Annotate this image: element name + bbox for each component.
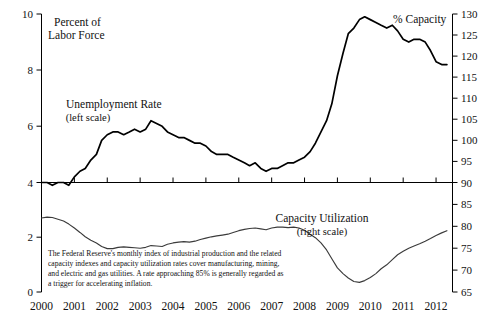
footnote-line-3: and electric and gas utilities. A rate a…	[48, 269, 284, 278]
x-tick-label: 2003	[129, 300, 152, 312]
right-axis-ticks: 130 125 120 115 110 105 100 95 90 85 80	[453, 8, 479, 298]
annotation-percent-labor-force: Percent of Labor Force	[48, 16, 105, 41]
right-tick-label: 85	[461, 198, 473, 210]
right-tick-label: 65	[461, 286, 473, 298]
x-tick-label: 2004	[162, 300, 185, 312]
x-tick-label: 2011	[392, 300, 415, 312]
right-tick-label: 90	[461, 177, 473, 189]
footnote-line-2: capacity indexes and capacity utilizatio…	[48, 259, 280, 268]
annotation-capacity-title: Capacity Utilization	[276, 212, 369, 225]
left-tick-label: 2	[28, 231, 34, 243]
chart-figure: 10 8 6 4 2 0 130 125 120 115 110	[0, 0, 500, 328]
x-tick-label: 2005	[194, 300, 217, 312]
x-tick-label: 2002	[96, 300, 119, 312]
right-tick-label: 70	[461, 264, 473, 276]
right-tick-label: 100	[461, 134, 478, 146]
right-tick-label: 75	[461, 242, 473, 254]
x-axis-ticks	[42, 178, 437, 183]
annotation-capacity-utilization: Capacity Utilization (right scale)	[276, 212, 369, 238]
left-tick-label: 0	[28, 286, 34, 298]
left-axis-ticks: 10 8 6 4 2 0	[22, 8, 42, 298]
upper-right-unit-label: % Capacity	[393, 13, 447, 26]
right-tick-label: 110	[461, 92, 478, 104]
annotation-capacity-subtitle: (right scale)	[297, 226, 348, 238]
x-tick-label: 2012	[425, 300, 448, 312]
annotation-unemployment-title: Unemployment Rate	[66, 98, 162, 111]
upper-left-unit-label-line1: Percent of	[54, 16, 101, 28]
x-tick-label: 2007	[260, 300, 283, 312]
x-tick-label: 2001	[63, 300, 86, 312]
left-tick-label: 4	[28, 177, 34, 189]
x-tick-label: 2006	[227, 300, 250, 312]
left-tick-label: 10	[22, 8, 34, 20]
x-tick-label: 2000	[30, 300, 53, 312]
x-tick-label: 2010	[359, 300, 382, 312]
right-tick-label: 115	[461, 71, 478, 83]
right-tick-label: 125	[461, 29, 478, 41]
annotation-unemployment-subtitle: (left scale)	[66, 112, 111, 124]
left-tick-label: 8	[28, 64, 34, 76]
right-tick-label: 120	[461, 50, 478, 62]
x-axis-labels: 2000200120022003200420052006200720082009…	[30, 300, 448, 312]
x-tick-label: 2009	[326, 300, 349, 312]
x-tick-label: 2008	[293, 300, 316, 312]
upper-left-unit-label-line2: Labor Force	[48, 29, 105, 41]
right-tick-label: 80	[461, 220, 473, 232]
chart-svg: 10 8 6 4 2 0 130 125 120 115 110	[0, 0, 500, 328]
footnote-line-4: a trigger for accelerating inflation.	[48, 279, 152, 288]
right-tick-label: 95	[461, 155, 473, 167]
left-tick-label: 6	[28, 120, 34, 132]
footnote-line-1: The Federal Reserve's monthly index of i…	[48, 249, 282, 258]
annotation-unemployment-rate: Unemployment Rate (left scale)	[66, 98, 162, 124]
footnote: The Federal Reserve's monthly index of i…	[48, 249, 284, 288]
right-tick-label: 130	[461, 8, 478, 20]
right-tick-label: 105	[461, 113, 478, 125]
